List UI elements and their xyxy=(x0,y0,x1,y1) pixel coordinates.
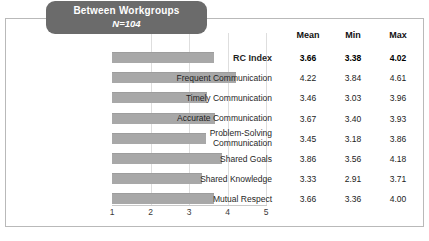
statistics-table: MeanMinMax3.663.384.024.223.844.613.463.… xyxy=(288,20,420,210)
table-cell-min: 3.38 xyxy=(333,53,373,63)
x-axis-tick-label: 4 xyxy=(218,207,238,217)
chart-subtitle-sample-size: N=104 xyxy=(46,17,207,30)
table-cell-min: 3.84 xyxy=(333,73,373,83)
table-cell-mean: 3.45 xyxy=(288,134,328,144)
table-cell-mean: 3.67 xyxy=(288,114,328,124)
table-cell-mean: 3.86 xyxy=(288,154,328,164)
category-label: Accurate Communication xyxy=(164,113,272,123)
table-cell-mean: 4.22 xyxy=(288,73,328,83)
chart-title-badge: Between Workgroups N=104 xyxy=(46,1,207,34)
table-cell-max: 4.61 xyxy=(378,73,418,83)
rc-index-chart-figure: Between Workgroups N=104 RC IndexFrequen… xyxy=(0,0,429,241)
table-cell-max: 4.00 xyxy=(378,194,418,204)
table-cell-min: 2.91 xyxy=(333,174,373,184)
table-cell-min: 3.36 xyxy=(333,194,373,204)
table-column-header: Mean xyxy=(288,30,328,40)
category-label-line: RC Index xyxy=(164,53,272,63)
category-label-line: Accurate Communication xyxy=(164,113,272,123)
category-label-line: Shared Goals xyxy=(164,154,272,164)
table-cell-max: 3.96 xyxy=(378,93,418,103)
table-cell-max: 3.93 xyxy=(378,114,418,124)
category-label: RC Index xyxy=(164,53,272,63)
x-axis-line xyxy=(112,205,267,206)
table-cell-max: 3.71 xyxy=(378,174,418,184)
table-cell-mean: 3.66 xyxy=(288,194,328,204)
category-label: Mutual Respect xyxy=(164,194,272,204)
x-axis-tick-label: 1 xyxy=(102,207,122,217)
table-cell-min: 3.03 xyxy=(333,93,373,103)
category-label-line: Mutual Respect xyxy=(164,194,272,204)
table-cell-mean: 3.46 xyxy=(288,93,328,103)
table-cell-mean: 3.33 xyxy=(288,174,328,184)
x-axis-tick-label: 2 xyxy=(141,207,161,217)
table-cell-max: 4.18 xyxy=(378,154,418,164)
category-label: Shared Knowledge xyxy=(164,174,272,184)
table-column-header: Max xyxy=(378,30,418,40)
table-cell-min: 3.56 xyxy=(333,154,373,164)
table-cell-max: 4.02 xyxy=(378,53,418,63)
category-label-line: Communication xyxy=(164,138,272,148)
table-cell-min: 3.18 xyxy=(333,134,373,144)
x-axis-tick-label: 5 xyxy=(256,207,276,217)
category-label-line: Problem-Solving xyxy=(164,128,272,138)
category-label-line: Shared Knowledge xyxy=(164,174,272,184)
category-label: Frequent Communication xyxy=(164,73,272,83)
category-label-line: Timely Communication xyxy=(164,93,272,103)
category-label: Problem-SolvingCommunication xyxy=(164,128,272,148)
table-cell-mean: 3.66 xyxy=(288,53,328,63)
category-label: Shared Goals xyxy=(164,154,272,164)
x-axis-tick-label: 3 xyxy=(179,207,199,217)
chart-title: Between Workgroups xyxy=(46,4,207,17)
table-cell-min: 3.40 xyxy=(333,114,373,124)
table-cell-max: 3.86 xyxy=(378,134,418,144)
category-label: Timely Communication xyxy=(164,93,272,103)
table-column-header: Min xyxy=(333,30,373,40)
category-label-line: Frequent Communication xyxy=(164,73,272,83)
